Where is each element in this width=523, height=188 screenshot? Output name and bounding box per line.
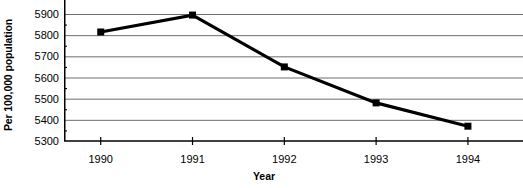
y-axis-tick-labels: 5300540055005600570058005900 <box>16 0 62 155</box>
x-axis-tick-label: 1992 <box>272 153 296 166</box>
x-axis-tick-label: 1993 <box>364 153 388 166</box>
data-point-marker <box>373 99 380 106</box>
x-axis-tick-labels: 19901991199219931994 <box>64 153 523 169</box>
x-axis-tick-label: 1990 <box>88 153 112 166</box>
data-point-marker <box>464 123 471 130</box>
y-axis-tick-label: 5700 <box>35 51 59 62</box>
x-axis-title: Year <box>64 170 464 182</box>
y-axis-tick-label: 5600 <box>35 72 59 83</box>
y-axis-tick-label: 5300 <box>35 136 59 147</box>
y-axis-title-text: Per 100,000 population <box>2 19 14 131</box>
data-series-line <box>101 15 468 126</box>
y-axis-tick-label: 5400 <box>35 114 59 125</box>
line-chart-figure: Per 100,000 population 53005400550056005… <box>0 0 523 188</box>
y-axis-tick-label: 5500 <box>35 93 59 104</box>
y-axis-title: Per 100,000 population <box>0 0 16 150</box>
y-axis-tick-label: 5900 <box>35 9 59 20</box>
data-point-marker <box>189 12 196 19</box>
y-axis-tick-label: 5800 <box>35 30 59 41</box>
x-axis-tick-label: 1991 <box>180 153 204 166</box>
gridlines <box>64 15 523 121</box>
data-point-marker <box>281 63 288 70</box>
data-point-marker <box>97 28 104 35</box>
x-axis-title-text: Year <box>253 170 275 182</box>
plot-area <box>64 0 523 155</box>
x-axis-tick-label: 1994 <box>456 153 480 166</box>
